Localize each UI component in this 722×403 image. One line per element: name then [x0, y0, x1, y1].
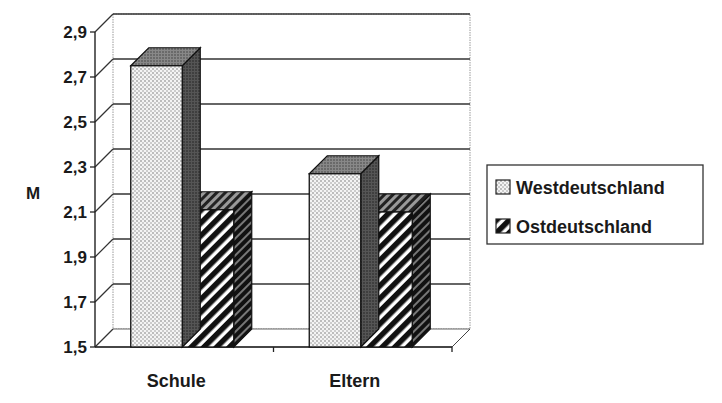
bar-side-westdeutschland [361, 156, 379, 347]
legend: Westdeutschland Ostdeutschland [487, 165, 703, 244]
y-tick-label: 2,1 [63, 203, 87, 222]
chart: 1,51,71,92,12,32,52,72,9 SchuleEltern M … [0, 0, 722, 403]
gridline-side [95, 14, 113, 32]
gridline-side [95, 59, 113, 77]
legend-label: Westdeutschland [516, 178, 665, 198]
legend-swatch-stripes [496, 219, 510, 233]
gridline-side [95, 194, 113, 212]
gridline-side [95, 239, 113, 257]
y-tick-label: 1,7 [63, 293, 87, 312]
y-tick-label: 2,5 [63, 113, 87, 132]
category-labels: SchuleEltern [147, 371, 381, 391]
y-tick-label: 2,9 [63, 23, 87, 42]
legend-swatch-dots [496, 180, 510, 194]
y-tick-label: 1,5 [63, 338, 87, 357]
bar-westdeutschland-schule [131, 66, 183, 347]
x-category-label: Eltern [329, 371, 380, 391]
x-category-label: Schule [147, 371, 206, 391]
y-tick-label: 1,9 [63, 248, 87, 267]
gridline-side [95, 284, 113, 302]
bar-westdeutschland-eltern [309, 174, 361, 347]
y-tick-label: 2,3 [63, 158, 87, 177]
legend-item-westdeutschland: Westdeutschland [496, 178, 665, 198]
gridline-side [95, 104, 113, 122]
y-tick-label: 2,7 [63, 68, 87, 87]
y-axis-title: M [26, 184, 40, 203]
bar-side-ostdeutschland [412, 194, 430, 347]
gridline-side [95, 149, 113, 167]
legend-item-ostdeutschland: Ostdeutschland [496, 217, 652, 237]
bar-side-ostdeutschland [234, 192, 252, 347]
y-tick-labels: 1,51,71,92,12,32,52,72,9 [63, 23, 87, 357]
legend-label: Ostdeutschland [516, 217, 652, 237]
bar-side-westdeutschland [182, 48, 200, 347]
